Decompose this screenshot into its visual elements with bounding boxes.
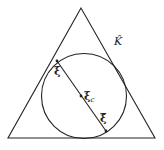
reference-triangle <box>8 8 155 138</box>
point-center <box>80 95 83 98</box>
point-xi-tilde <box>105 130 108 133</box>
label-xi-center-sub: c <box>91 96 95 104</box>
label-xi-center: ξc <box>84 91 94 104</box>
diagram-canvas <box>0 0 164 150</box>
label-element-k-hat: K̂ <box>114 36 122 47</box>
point-xi <box>56 60 59 63</box>
label-xi-tilde: ξ̃ <box>100 113 107 124</box>
label-xi: ξ <box>54 66 61 77</box>
